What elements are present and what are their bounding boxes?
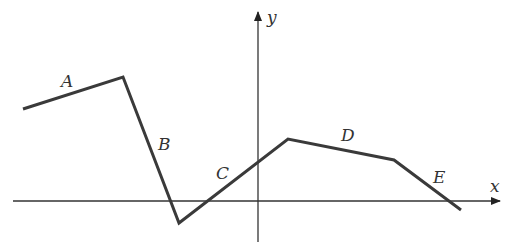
x-axis-label: x	[490, 176, 500, 196]
segment-label-d: D	[340, 125, 355, 145]
segment-label-c: C	[216, 163, 229, 183]
piecewise-graph: x y A B C D E	[0, 0, 507, 252]
segment-label-e: E	[432, 167, 446, 187]
segment-label-a: A	[59, 71, 73, 91]
segment-label-b: B	[157, 134, 171, 154]
y-axis-label: y	[266, 7, 277, 27]
